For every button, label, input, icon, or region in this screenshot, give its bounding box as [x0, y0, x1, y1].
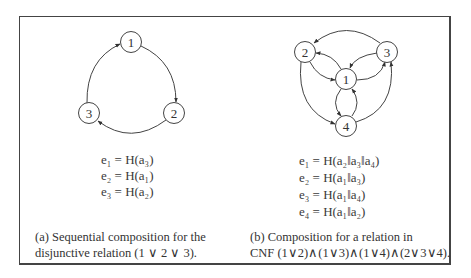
svg-text:3: 3	[86, 106, 93, 121]
edge-b-2-4	[300, 62, 335, 124]
edge-b-1-2	[316, 53, 341, 69]
node-b-4: 4	[336, 116, 357, 137]
caption-a-line-2: disjunctive relation (1 ∨ 2 ∨ 3).	[35, 245, 231, 261]
edge-a-2-3	[98, 120, 166, 133]
equation-a-1: e₁ = H(a₃)	[101, 152, 153, 168]
edge-b-1-3	[357, 62, 385, 80]
node-a-1: 1	[121, 32, 142, 53]
caption-b: (b) Composition for a relation in CNF (1…	[250, 229, 446, 261]
graph-b-nodes: 1 2 3 4	[295, 42, 398, 137]
svg-text:1: 1	[128, 35, 135, 50]
svg-text:4: 4	[343, 119, 350, 134]
node-a-3: 3	[79, 103, 100, 124]
equation-b-1: e₁ = H(a₂‖a₃‖a₄)	[299, 152, 379, 169]
edge-a-1-2	[141, 46, 176, 102]
edge-b-2-1	[310, 62, 335, 80]
node-b-2: 2	[295, 42, 316, 63]
edge-b-1-4	[336, 89, 342, 116]
equations-a: e₁ = H(a₃) e₂ = H(a₁) e₃ = H(a₂)	[101, 152, 153, 200]
edge-a-3-1	[87, 44, 120, 103]
equation-a-2: e₂ = H(a₁)	[101, 168, 153, 184]
edge-b-3-2	[314, 31, 380, 44]
caption-b-line-2: CNF (1∨2)∧(1∨3)∧(1∨4)∧(2∨3∨4).	[250, 245, 446, 261]
graph-a-edges	[87, 44, 176, 133]
node-b-3: 3	[377, 42, 398, 63]
equation-b-4: e₄ = H(a₁‖a₂)	[299, 203, 379, 220]
caption-b-line-1: (b) Composition for a relation in	[250, 229, 446, 245]
equation-b-2: e₂ = H(a₁‖a₃)	[299, 169, 379, 186]
node-a-2: 2	[164, 103, 185, 124]
svg-text:2: 2	[171, 106, 178, 121]
edge-b-3-1	[350, 53, 377, 68]
graph-a-nodes: 1 2 3	[79, 32, 185, 124]
svg-text:3: 3	[384, 45, 391, 60]
svg-text:2: 2	[302, 45, 309, 60]
equation-a-3: e₃ = H(a₂)	[101, 184, 153, 200]
node-b-1: 1	[336, 69, 357, 90]
caption-a: (a) Sequential composition for the disju…	[35, 229, 231, 261]
equation-b-3: e₃ = H(a₁‖a₄)	[299, 186, 379, 203]
equations-b: e₁ = H(a₂‖a₃‖a₄) e₂ = H(a₁‖a₃) e₃ = H(a₁…	[299, 152, 379, 220]
edge-b-4-3	[356, 62, 392, 122]
caption-a-line-1: (a) Sequential composition for the	[35, 229, 231, 245]
edge-b-4-1	[352, 89, 357, 116]
svg-text:1: 1	[343, 72, 350, 87]
